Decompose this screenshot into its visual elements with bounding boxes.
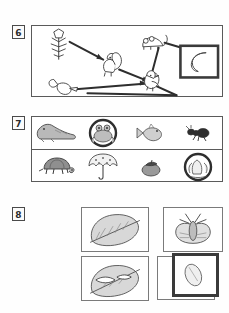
- eaten-leaf-icon: [82, 257, 148, 300]
- arrow-plant-to-squirrel: [70, 42, 104, 60]
- box-moth[interactable]: [163, 207, 223, 252]
- cell-turtle[interactable]: [32, 150, 80, 183]
- item-8-box-area: [31, 207, 223, 303]
- worksheet-page: 6: [0, 0, 229, 313]
- item-8: 8: [12, 207, 223, 303]
- squirrel-icon: [104, 53, 122, 77]
- cell-ant[interactable]: [175, 117, 223, 149]
- item-6: 6: [12, 25, 223, 97]
- box-chewed-leaf[interactable]: [81, 256, 149, 301]
- cell-umbrella[interactable]: [80, 150, 128, 183]
- frog-icon: [88, 118, 118, 148]
- turtle-icon: [36, 155, 76, 179]
- fish-icon: [135, 123, 167, 143]
- cell-seal[interactable]: [32, 117, 80, 149]
- food-web-canvas: [32, 26, 222, 97]
- whole-leaf-icon: [82, 208, 148, 251]
- moth-icon: [164, 208, 222, 251]
- item-6-number: 6: [12, 25, 25, 39]
- cell-berry[interactable]: [127, 150, 175, 183]
- arrow-acorn-to-bird: [76, 80, 147, 89]
- item-8-number: 8: [12, 207, 25, 221]
- grid-row-bottom: [32, 150, 222, 183]
- seal-icon: [35, 121, 77, 145]
- box-whole-leaf[interactable]: [81, 207, 149, 252]
- flower-plant-icon: [51, 29, 67, 60]
- grid-row-top: [32, 117, 222, 150]
- box-cocoon-highlighted[interactable]: [172, 253, 219, 297]
- cell-leaf-buds[interactable]: [175, 150, 223, 183]
- ant-icon: [184, 124, 212, 142]
- cell-frog[interactable]: [80, 117, 128, 149]
- berry-icon: [139, 156, 163, 178]
- cell-fish[interactable]: [127, 117, 175, 149]
- item-6-diagram-frame: [31, 25, 223, 97]
- leaf-buds-icon: [183, 152, 213, 182]
- cocoon-icon: [175, 256, 216, 294]
- item-7: 7: [12, 116, 223, 182]
- mouse-icon: [143, 35, 167, 50]
- umbrella-icon: [86, 152, 120, 182]
- item-7-number: 7: [12, 116, 25, 130]
- bird-icon: [145, 71, 159, 92]
- acorn-nut-icon: [49, 79, 77, 94]
- item-7-grid-frame: [31, 116, 223, 182]
- crescent-moon-box: [180, 46, 218, 78]
